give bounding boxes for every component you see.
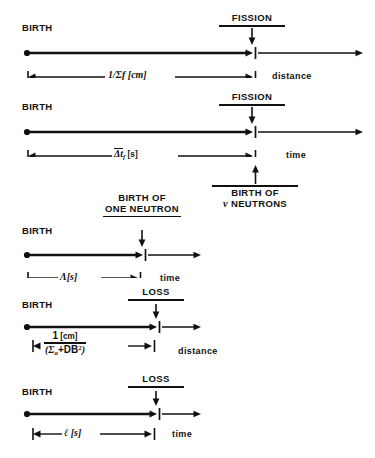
axis-label-row-5: time <box>172 430 192 439</box>
dimension-label-row-4: 1 [cm] (Σa+DB2) <box>44 331 86 356</box>
unit-cm: [cm] <box>58 332 78 341</box>
fraction-one-over-sigma-a: 1 [cm] (Σa+DB2) <box>44 331 86 356</box>
unit-seconds: [s] <box>125 150 137 159</box>
dimension-label-row-1: 1/Σf [cm] <box>108 70 147 80</box>
delta-t-overbar: Δt <box>114 148 123 160</box>
nu-neutrons-line: ν NEUTRONS <box>212 199 298 210</box>
dimension-expression: ℓ [s] <box>64 427 81 438</box>
timeline-axis-row-2 <box>0 99 375 157</box>
dimension-expression: 1/Σf [cm] <box>108 69 147 80</box>
fraction-numerator: 1 [cm] <box>44 331 86 342</box>
nu-symbol: ν <box>223 198 228 209</box>
dimension-label-row-3: Λ[s] <box>60 272 77 282</box>
timeline-axis-row-3 <box>0 220 375 278</box>
lower-event-label-row-2: BIRTH OF ν NEUTRONS <box>212 185 298 209</box>
timeline-axis-row-1 <box>0 20 375 78</box>
axis-label-row-1: distance <box>272 72 312 81</box>
event-underline <box>103 216 181 218</box>
fraction-denominator: (Σa+DB2) <box>44 344 86 356</box>
dimension-expression: Λ[s] <box>60 271 77 282</box>
axis-label-row-2: time <box>286 151 306 160</box>
dimension-label-row-5: ℓ [s] <box>64 428 81 438</box>
neutron-lifecycle-figure: FISSION BIRTH 1/Σf [cm] distance FISSION… <box>0 0 375 458</box>
axis-label-row-4: distance <box>178 347 218 356</box>
lower-event-arrow-row-2 <box>226 164 286 186</box>
axis-label-row-3: time <box>160 274 180 283</box>
dimension-label-row-2: Δtf [s] <box>114 148 138 161</box>
event-label-one-neutron: BIRTH OF ONE NEUTRON <box>88 193 196 217</box>
